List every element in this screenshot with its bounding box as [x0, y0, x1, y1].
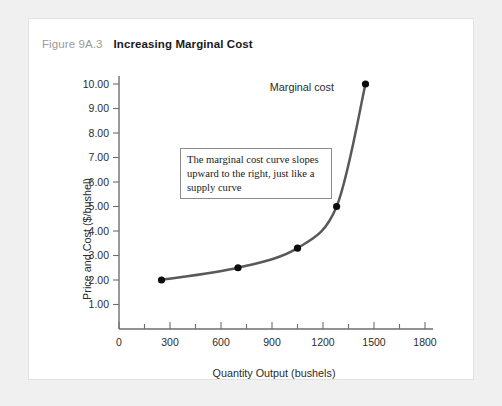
y-tick-label: 10.00 — [83, 78, 109, 90]
x-tick-label: 300 — [161, 336, 179, 348]
data-point-marker — [158, 276, 165, 283]
data-point-marker — [234, 264, 241, 271]
x-axis: 0300600900120015001800 — [116, 322, 437, 348]
data-point-marker — [362, 80, 369, 87]
x-tick-label: 1800 — [413, 336, 437, 348]
x-axis-title: Quantity Output (bushels) — [212, 367, 335, 379]
x-tick-label: 1500 — [362, 336, 386, 348]
y-tick-label: 8.00 — [89, 127, 110, 139]
y-tick-label: 7.00 — [89, 151, 110, 163]
callout-text: The marginal cost curve slopes upward to… — [187, 153, 325, 196]
x-tick-label: 900 — [263, 336, 281, 348]
data-point-marker — [333, 203, 340, 210]
x-tick-label: 1200 — [311, 336, 335, 348]
x-tick-label: 0 — [116, 336, 122, 348]
y-axis-title: Price and Cost ($/bushel) — [81, 178, 93, 300]
x-tick-label: 600 — [212, 336, 230, 348]
chart-plot-area: 1.002.003.004.005.006.007.008.009.0010.0… — [29, 19, 475, 381]
y-tick-label: 9.00 — [89, 102, 110, 114]
callout-box: The marginal cost curve slopes upward to… — [180, 148, 332, 199]
data-point-marker — [294, 245, 301, 252]
series-inline-label: Marginal cost — [270, 81, 334, 93]
figure-card: Figure 9A.3 Increasing Marginal Cost 1.0… — [28, 18, 474, 380]
